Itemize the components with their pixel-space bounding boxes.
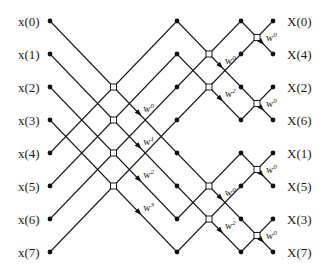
butterfly-node	[206, 183, 212, 189]
node-dot-s2-r5	[239, 184, 244, 189]
fft-butterfly-diagram: w0w1w2w3w0w2w0w2w0w0w0w0 x(0) x(1) x(2) …	[0, 0, 320, 276]
node-dot-s0-r3	[48, 118, 53, 123]
node-dot-s1-r2	[175, 85, 180, 90]
twiddle-label: w0	[266, 163, 277, 175]
butterfly-node	[254, 167, 260, 173]
output-label-2: X(2)	[287, 80, 312, 95]
node-dot-s2-r7	[239, 250, 244, 255]
node-dot-s2-r6	[239, 217, 244, 222]
twiddle-label: w0	[266, 229, 277, 241]
butterfly-node	[206, 216, 212, 222]
input-labels: x(0) x(1) x(2) x(3) x(4) x(5) x(6) x(7)	[18, 14, 40, 260]
node-dot-s3-r4	[271, 151, 276, 156]
output-label-6: X(3)	[287, 212, 312, 227]
node-dot-s1-r0	[175, 19, 180, 24]
butterfly-node	[254, 35, 260, 41]
node-dot-s1-r6	[175, 217, 180, 222]
node-dot-s2-r0	[239, 19, 244, 24]
output-label-4: X(1)	[287, 146, 312, 161]
twiddle-label: w2	[225, 219, 236, 231]
node-dot-s2-r1	[239, 52, 244, 57]
node-dot-s0-r1	[48, 52, 53, 57]
node-dot-s3-r3	[271, 118, 276, 123]
output-labels: X(0) X(4) X(2) X(6) X(1) X(5) X(3) X(7)	[287, 14, 312, 260]
node-dot-s3-r5	[271, 184, 276, 189]
butterfly-node	[206, 84, 212, 90]
butterfly-node	[206, 51, 212, 57]
input-label-7: x(7)	[18, 245, 40, 260]
node-dot-s2-r2	[239, 85, 244, 90]
butterfly-node	[111, 183, 117, 189]
butterfly-node	[111, 117, 117, 123]
output-label-3: X(6)	[287, 113, 312, 128]
node-dot-s0-r7	[48, 250, 53, 255]
node-dot-s0-r4	[48, 151, 53, 156]
node-dot-s0-r5	[48, 184, 53, 189]
node-dot-s1-r4	[175, 151, 180, 156]
node-dot-s1-r5	[175, 184, 180, 189]
twiddle-label: w0	[266, 97, 277, 109]
input-label-2: x(2)	[18, 80, 40, 95]
input-label-5: x(5)	[18, 179, 40, 194]
node-dot-s0-r0	[48, 19, 53, 24]
input-label-4: x(4)	[18, 146, 40, 161]
node-dot-s3-r2	[271, 85, 276, 90]
node-dot-s3-r7	[271, 250, 276, 255]
twiddle-label: w0	[225, 54, 236, 66]
output-label-0: X(0)	[287, 14, 312, 29]
node-dot-s0-r6	[48, 217, 53, 222]
node-dot-s1-r1	[175, 52, 180, 57]
twiddle-labels: w0w1w2w3w0w2w0w2w0w0w0w0	[143, 31, 277, 241]
crossing-nodes	[111, 35, 261, 239]
input-label-0: x(0)	[18, 14, 40, 29]
twiddle-label: w0	[266, 31, 277, 43]
node-dot-s3-r6	[271, 217, 276, 222]
output-label-7: X(7)	[287, 245, 312, 260]
output-label-5: X(5)	[287, 179, 312, 194]
butterfly-node	[111, 84, 117, 90]
node-dot-s0-r2	[48, 85, 53, 90]
twiddle-arrows	[135, 38, 264, 243]
node-dot-s3-r0	[271, 19, 276, 24]
butterfly-node	[111, 150, 117, 156]
output-label-1: X(4)	[287, 47, 312, 62]
twiddle-label: w0	[225, 186, 236, 198]
node-dot-s1-r7	[175, 250, 180, 255]
node-dot-s3-r1	[271, 52, 276, 57]
twiddle-label: w2	[143, 168, 154, 180]
butterfly-node	[254, 233, 260, 239]
input-label-6: x(6)	[18, 212, 40, 227]
twiddle-label: w2	[225, 87, 236, 99]
input-label-1: x(1)	[18, 47, 40, 62]
node-dot-s1-r3	[175, 118, 180, 123]
node-dot-s2-r4	[239, 151, 244, 156]
node-dot-s2-r3	[239, 118, 244, 123]
twiddle-label: w3	[143, 201, 154, 213]
butterfly-node	[254, 101, 260, 107]
input-label-3: x(3)	[18, 113, 40, 128]
